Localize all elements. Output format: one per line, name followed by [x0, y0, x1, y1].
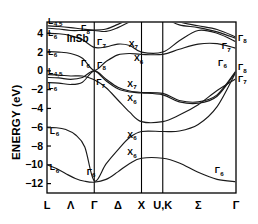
band-label-symbol: L: [48, 47, 53, 57]
band-label-subscript: 6: [86, 62, 90, 69]
band-structure-plot: 420−2−4−6−8−10−12 LΓXU,KΓΛΔΣ L4,5L6L6L4,…: [0, 0, 258, 224]
band-label-symbol: L: [50, 126, 55, 136]
band-label-subscript: 6: [133, 98, 137, 105]
band-label: Γ7: [97, 37, 106, 49]
band-label-subscript: 4,5: [54, 20, 63, 27]
material-name: InSb: [67, 33, 89, 44]
band-label-subscript: 6: [54, 51, 58, 58]
x-segment-label: Δ: [114, 199, 122, 211]
band-label: X7: [129, 39, 139, 51]
band-label-subscript: 7: [243, 78, 247, 85]
band-label-subscript: 6: [133, 134, 137, 141]
x-tick-label: L: [44, 199, 51, 211]
band-label-subscript: 7: [102, 42, 106, 49]
x-tick-label: Γ: [91, 199, 98, 211]
band-label-subscript: 6: [54, 33, 58, 40]
band-label-subscript: 7: [227, 46, 231, 53]
band-label: Γ7: [238, 74, 247, 86]
material-label: InSb: [67, 33, 89, 44]
band-label-subscript: 8: [102, 64, 106, 71]
band-label: Γ8: [97, 60, 106, 72]
band-label: L4,5: [48, 16, 63, 28]
band-label-subscript: 8: [243, 37, 247, 44]
band-label-subscript: 7: [133, 83, 137, 90]
band-label-subscript: 6: [223, 62, 227, 69]
band-label-symbol: L: [48, 66, 53, 76]
band-label: L6: [48, 28, 58, 40]
band-label-symbol: L: [48, 28, 53, 38]
y-tick-label: 2: [37, 46, 43, 58]
band-label: L4,5: [48, 66, 63, 78]
band-label: X7: [127, 79, 137, 91]
band-label-symbol: L: [50, 162, 55, 172]
band-label-subscript: 4,5: [54, 70, 63, 77]
band-label: Γ6: [215, 165, 224, 177]
band-label: X6: [127, 147, 137, 159]
band-label: X6: [127, 93, 137, 105]
band-label-subscript: 6: [220, 170, 224, 177]
y-tick-label: −8: [31, 140, 43, 152]
band-structure-figure: ENERGY (eV) 420−2−4−6−8−10−12 LΓXU,KΓΛΔΣ…: [0, 0, 258, 224]
x-segment-label: Σ: [195, 199, 202, 211]
band-label-symbol: L: [48, 81, 53, 91]
x-tick-label: U,K: [153, 199, 172, 211]
band-label: Γ8: [238, 33, 247, 45]
y-tick-label: −4: [31, 102, 43, 114]
y-tick-label: 0: [37, 64, 43, 76]
band-label-subscript: 8: [243, 67, 247, 74]
x-tick-labels: LΓXU,KΓΛΔΣ: [44, 199, 240, 211]
x-tick-label: X: [138, 199, 146, 211]
band-label-subscript: 6: [140, 58, 144, 65]
band-label-subscript: 6: [56, 167, 60, 174]
band-label: Γ8: [238, 62, 247, 74]
band-label: X6: [127, 130, 137, 142]
band-label-subscript: 6: [56, 130, 60, 137]
y-tick-label: −12: [25, 177, 43, 189]
band-label: L6: [50, 162, 60, 174]
y-tick-label: 4: [37, 27, 43, 39]
band-label-subscript: 6: [92, 171, 96, 178]
band-label: Γ6: [218, 58, 227, 70]
band-label-subscript: 7: [135, 43, 139, 50]
band-label-subscript: 6: [54, 85, 58, 92]
band-label: L6: [48, 47, 58, 59]
band-label-symbol: L: [48, 16, 53, 26]
band-label: X6: [134, 53, 144, 65]
y-tick-label: −10: [25, 158, 43, 170]
band-label: Γ6: [81, 58, 90, 70]
band-label-subscript: 6: [133, 152, 137, 159]
band-label-subscript: 7: [102, 82, 106, 89]
y-tick-label: −2: [31, 83, 43, 95]
band-label: Γ7: [222, 41, 231, 53]
x-tick-label: Γ: [233, 199, 240, 211]
y-tick-label: −6: [31, 121, 43, 133]
y-tick-labels: 420−2−4−6−8−10−12: [25, 27, 43, 189]
x-segment-label: Λ: [67, 199, 75, 211]
